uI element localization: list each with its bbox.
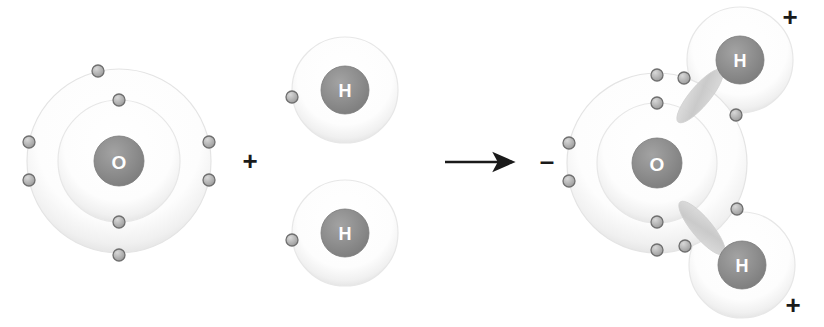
electron (113, 216, 125, 228)
shared-electron (678, 72, 690, 84)
oxygen-atom: O (23, 65, 215, 261)
hydrogen-atom-bottom: H (286, 180, 398, 286)
electron (23, 174, 35, 186)
reaction-diagram: O + H H (0, 0, 824, 327)
plus-operator: + (242, 146, 257, 176)
electron (563, 137, 575, 149)
electron (651, 69, 663, 81)
hydrogen-nucleus-label: H (339, 81, 352, 101)
oxygen-negative-charge: – (540, 146, 554, 176)
hydrogen-top-positive-charge: + (782, 2, 797, 32)
electron (651, 244, 663, 256)
electron (203, 136, 215, 148)
shared-electron (731, 203, 743, 215)
diagram-canvas: O + H H (0, 0, 824, 327)
electron (23, 136, 35, 148)
shared-electron (679, 240, 691, 252)
water-hydrogen-bottom-label: H (736, 256, 749, 276)
hydrogen-nucleus-label: H (339, 224, 352, 244)
electron (286, 91, 298, 103)
electron (113, 94, 125, 106)
water-hydrogen-top-label: H (734, 51, 747, 71)
oxygen-nucleus-label: O (112, 152, 127, 173)
electron (563, 175, 575, 187)
electron (651, 216, 663, 228)
shared-electron (730, 109, 742, 121)
electron (113, 249, 125, 261)
water-molecule: O H H (540, 2, 801, 320)
electron (203, 174, 215, 186)
electron (651, 97, 663, 109)
hydrogen-atom-top: H (286, 37, 398, 143)
hydrogen-bottom-positive-charge: + (785, 290, 800, 320)
water-oxygen-label: O (650, 154, 665, 175)
electron (286, 234, 298, 246)
electron (92, 65, 104, 77)
